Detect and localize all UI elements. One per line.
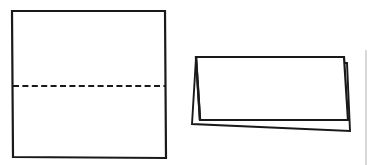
figure-canvas: Flat square sheet Fold along dashed line… [0,0,374,165]
step-1-flat-sheet [12,11,166,158]
card-front-panel-fill [196,57,348,120]
sheet-face-fill [12,11,166,158]
step-2-folded-card [192,57,350,131]
folding-diagram-svg [0,0,374,165]
